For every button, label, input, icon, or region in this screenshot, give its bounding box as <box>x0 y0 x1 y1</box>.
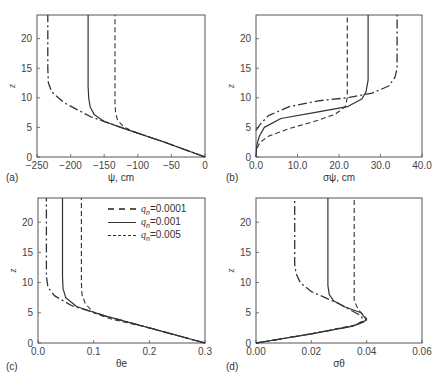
y-tick-label: 10 <box>240 92 252 103</box>
series-line <box>257 15 347 148</box>
panel-label: (d) <box>226 361 238 372</box>
x-tick-label: 20.0 <box>329 160 349 171</box>
y-tick-label: 5 <box>27 307 33 318</box>
x-axis-label: σθ <box>333 358 345 369</box>
x-axis-label: σψ, cm <box>323 172 355 183</box>
y-tick-label: 10 <box>22 277 34 288</box>
y-tick-label: 10 <box>21 92 33 103</box>
series-line <box>256 198 364 343</box>
y-tick-label: 15 <box>240 63 252 74</box>
chart-panel-d: 0.000.020.040.0605101520zσθ(d) <box>225 198 432 372</box>
series-line <box>88 15 205 157</box>
y-tick-label: 15 <box>22 247 34 258</box>
x-tick-label: −150 <box>93 160 116 171</box>
x-tick-label: 0.06 <box>412 346 432 357</box>
y-tick-label: 20 <box>22 217 34 228</box>
figure: −250−200−150−100−50005101520zψ, cm(a)0.0… <box>0 0 441 380</box>
x-tick-label: 0.02 <box>302 346 322 357</box>
y-tick-label: 10 <box>240 277 252 288</box>
panel-label: (c) <box>6 361 18 372</box>
y-tick-label: 20 <box>240 33 252 44</box>
legend-entry: qn=0.0001 <box>108 203 203 216</box>
series-line <box>256 15 368 157</box>
y-tick-label: 15 <box>240 247 252 258</box>
x-tick-label: 0.1 <box>87 346 101 357</box>
y-axis-label: z <box>225 268 236 273</box>
legend-swatch-dashdot <box>108 208 136 210</box>
y-axis-label: z <box>7 268 18 273</box>
x-axis-label: θe <box>116 358 128 369</box>
y-tick-label: 5 <box>245 122 251 133</box>
y-tick-label: 15 <box>21 63 33 74</box>
x-tick-label: 0.2 <box>142 346 156 357</box>
y-tick-label: 0 <box>27 338 33 349</box>
legend-label-value: =0.0001 <box>150 203 186 214</box>
legend-swatch-dashed <box>108 235 136 236</box>
x-axis-label: ψ, cm <box>108 172 134 183</box>
plot-frame <box>37 15 205 157</box>
legend-label-value: =0.005 <box>150 229 181 240</box>
y-axis-label: z <box>225 84 236 89</box>
y-tick-label: 0 <box>26 152 32 163</box>
legend-entry: qn=0.005 <box>108 229 203 242</box>
chart-panel-b: 0.010.020.030.040.005101520zσψ, cm(b) <box>225 15 432 183</box>
x-tick-label: 0.0 <box>31 346 45 357</box>
panel-label: (a) <box>6 172 18 183</box>
chart-panel-a: −250−200−150−100−50005101520zψ, cm(a) <box>6 15 208 183</box>
legend: qn=0.0001 qn=0.001 qn=0.005 <box>108 203 203 242</box>
legend-entry: qn=0.001 <box>108 216 203 229</box>
panel-label: (b) <box>226 172 238 183</box>
legend-label-value: =0.001 <box>150 216 181 227</box>
series-line <box>256 198 367 343</box>
y-tick-label: 0 <box>245 152 251 163</box>
x-tick-label: 0.3 <box>198 346 212 357</box>
x-tick-label: 0.04 <box>357 346 377 357</box>
x-tick-label: 40.0 <box>412 160 432 171</box>
series-line <box>115 15 205 157</box>
x-tick-label: 0.0 <box>249 160 263 171</box>
x-tick-label: −50 <box>163 160 180 171</box>
plot-frame <box>256 198 422 343</box>
y-tick-label: 0 <box>245 338 251 349</box>
y-tick-label: 20 <box>21 33 33 44</box>
x-tick-label: 0 <box>202 160 208 171</box>
y-tick-label: 20 <box>240 217 252 228</box>
x-tick-label: −200 <box>59 160 82 171</box>
x-tick-label: −100 <box>127 160 150 171</box>
y-axis-label: z <box>6 84 17 89</box>
series-line <box>48 15 205 157</box>
x-tick-label: 10.0 <box>288 160 308 171</box>
y-tick-label: 5 <box>26 122 32 133</box>
x-tick-label: 30.0 <box>371 160 391 171</box>
plot-frame <box>256 15 422 157</box>
legend-swatch-solid <box>108 222 136 223</box>
series-line <box>256 198 367 343</box>
series-line <box>256 15 397 130</box>
y-tick-label: 5 <box>245 307 251 318</box>
